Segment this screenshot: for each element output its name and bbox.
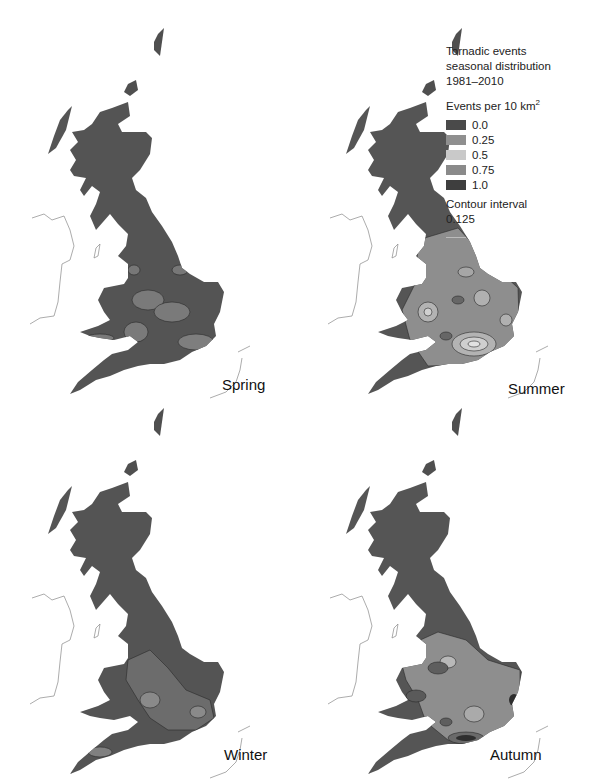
legend-units-text: Events per 10 km [446, 100, 535, 112]
season-label-autumn: Autumn [490, 746, 542, 763]
legend-swatch [446, 120, 466, 130]
season-label-summer: Summer [508, 380, 565, 397]
legend-entry: 1.0 [446, 178, 596, 193]
gb-map-autumn [298, 400, 596, 784]
gb-map-spring [0, 20, 298, 412]
map-panel-winter: Winter [0, 400, 298, 784]
legend-title-line: Tornadic events [446, 44, 596, 59]
contour-line-sample [446, 237, 466, 238]
legend: Tornadic events seasonal distribution 19… [446, 44, 596, 238]
legend-units: Events per 10 km2 [446, 95, 596, 114]
legend-title: Tornadic events seasonal distribution 19… [446, 44, 596, 89]
legend-swatch [446, 135, 466, 145]
season-label-winter: Winter [224, 746, 267, 763]
legend-entry: 0.25 [446, 133, 596, 148]
map-panel-spring: Spring [0, 20, 298, 412]
legend-units-sup: 2 [535, 98, 539, 107]
legend-entry-label: 0.75 [472, 163, 494, 178]
legend-title-line: 1981–2010 [446, 74, 596, 89]
legend-entry-label: 0.25 [472, 133, 494, 148]
legend-swatch [446, 165, 466, 175]
legend-swatch [446, 150, 466, 160]
legend-swatch [446, 180, 466, 190]
season-label-spring: Spring [222, 376, 265, 393]
gb-map-winter [0, 400, 298, 784]
contour-interval-label: Contour interval [446, 197, 596, 212]
legend-entry-label: 0.5 [472, 148, 488, 163]
map-panel-autumn: Autumn [298, 400, 596, 784]
legend-entry: 0.0 [446, 118, 596, 133]
legend-title-line: seasonal distribution [446, 59, 596, 74]
contour-interval-value: 0.125 [446, 212, 596, 227]
legend-entry: 0.75 [446, 163, 596, 178]
legend-entry: 0.5 [446, 148, 596, 163]
legend-entry-label: 0.0 [472, 118, 488, 133]
legend-entry-label: 1.0 [472, 178, 488, 193]
